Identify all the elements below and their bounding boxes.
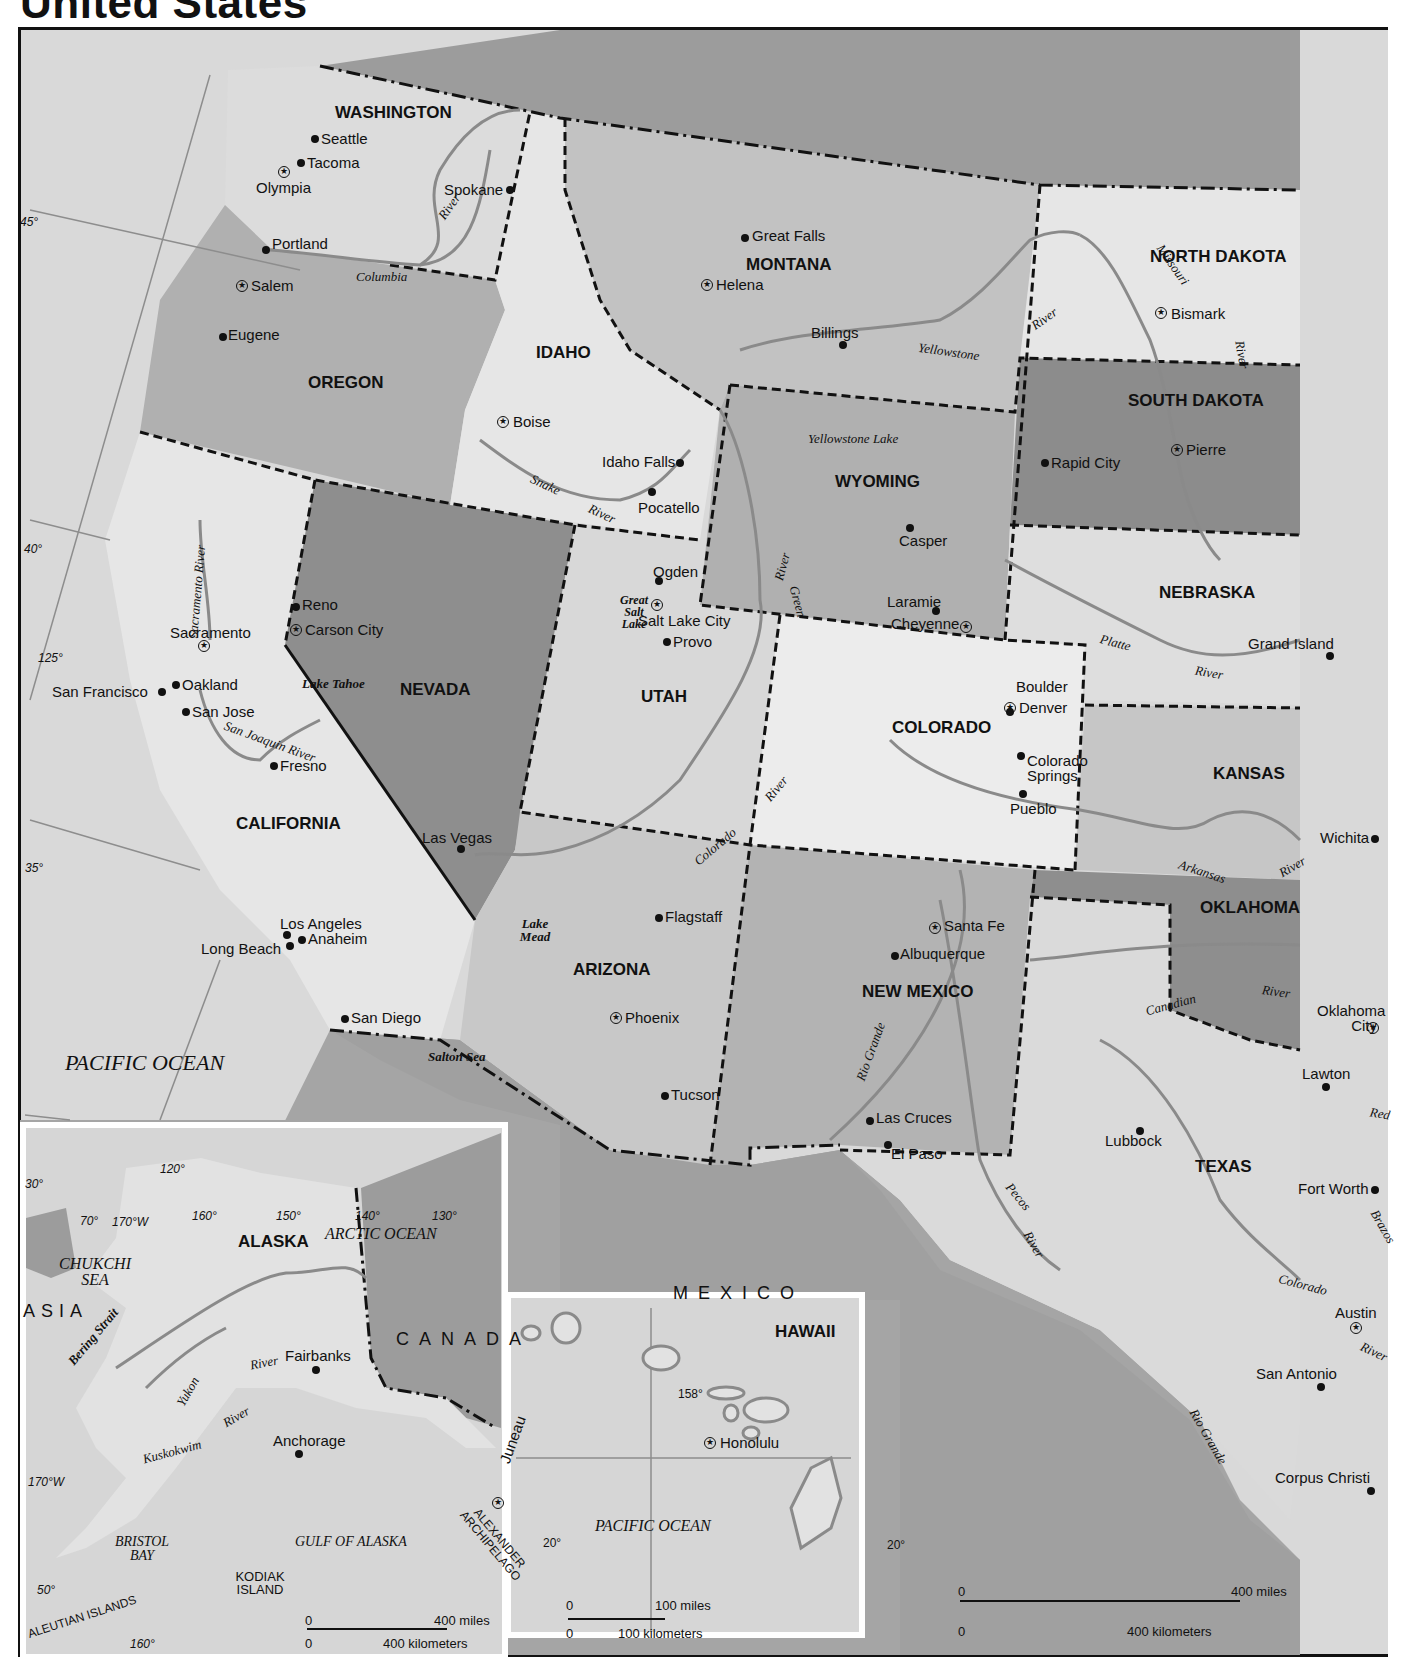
- city-label-grand-island: Grand Island: [1248, 636, 1334, 651]
- city-dot: [219, 333, 227, 341]
- city-label-casper: Casper: [899, 533, 947, 548]
- scale-alaska-zero: 0: [305, 1614, 312, 1627]
- state-label-washington: WASHINGTON: [335, 104, 452, 121]
- lat-label: 40°: [24, 543, 42, 555]
- capital-star-icon: ★: [198, 640, 210, 652]
- river-label-river: River: [1261, 983, 1291, 1000]
- lake-label-yellowstone: Yellowstone Lake: [808, 432, 898, 445]
- lon-label: 125°: [38, 652, 63, 664]
- alaska-lon-label: 170°W: [28, 1476, 64, 1488]
- scale-bar-main: [960, 1600, 1240, 1602]
- state-label-utah: UTAH: [641, 688, 687, 705]
- city-dot: [655, 914, 663, 922]
- state-label-kansas: KANSAS: [1213, 765, 1285, 782]
- state-label-nebraska: NEBRASKA: [1159, 584, 1255, 601]
- alaska-lat-label: 70°: [80, 1215, 98, 1227]
- capital-star-icon: ★: [497, 416, 509, 428]
- state-label-alaska: ALASKA: [238, 1233, 309, 1250]
- alaska-lat-label: 50°: [37, 1584, 55, 1596]
- state-label-wyoming: WYOMING: [835, 473, 920, 490]
- lat-label: 30°: [25, 1178, 43, 1190]
- city-dot: [262, 246, 270, 254]
- city-dot: [891, 952, 899, 960]
- capital-star-icon: ★: [704, 1437, 716, 1449]
- city-label-sacramento: Sacramento: [170, 625, 251, 640]
- capital-star-icon: ★: [1350, 1322, 1362, 1334]
- city-dot: [676, 459, 684, 467]
- city-label-olympia: Olympia: [256, 180, 311, 195]
- city-dot: [1041, 459, 1049, 467]
- city-label-oakland: Oakland: [182, 677, 238, 692]
- capital-star-icon: ★: [236, 280, 248, 292]
- state-label-new-mexico: NEW MEXICO: [862, 983, 973, 1000]
- state-label-texas: TEXAS: [1195, 1158, 1252, 1175]
- city-dot: [297, 159, 305, 167]
- city-label-el-paso: El Paso: [891, 1146, 943, 1161]
- sea-label-chukchi: CHUKCHI SEA: [55, 1256, 135, 1288]
- city-label-corpus-christi: Corpus Christi: [1275, 1470, 1370, 1485]
- river-label-red: Red: [1369, 1105, 1391, 1121]
- city-label-oklahoma-city: Oklahoma City: [1317, 1003, 1377, 1033]
- city-label-las-cruces: Las Cruces: [876, 1110, 952, 1125]
- hawaii-inset: [505, 1292, 865, 1638]
- scale-alaska-zero-km: 0: [305, 1637, 312, 1650]
- city-label-seattle: Seattle: [321, 131, 368, 146]
- state-label-hawaii: HAWAII: [775, 1323, 835, 1340]
- city-dot: [1322, 1083, 1330, 1091]
- state-label-idaho: IDAHO: [536, 344, 591, 361]
- city-dot: [292, 603, 300, 611]
- river-label-columbia: Columbia: [356, 270, 407, 283]
- city-dot: [311, 135, 319, 143]
- city-dot: [270, 762, 278, 770]
- state-label-oklahoma: OKLAHOMA: [1200, 899, 1300, 916]
- city-dot: [661, 1092, 669, 1100]
- city-dot: [1371, 1186, 1379, 1194]
- capital-star-icon: ★: [1155, 307, 1167, 319]
- city-dot: [312, 1366, 320, 1374]
- state-label-california: CALIFORNIA: [236, 815, 341, 832]
- state-label-montana: MONTANA: [746, 256, 832, 273]
- city-label-wichita: Wichita: [1320, 830, 1369, 845]
- city-dot: [341, 1015, 349, 1023]
- scale-bar-hawaii: [568, 1618, 665, 1620]
- city-dot: [1326, 652, 1334, 660]
- lat-label: 35°: [25, 862, 43, 874]
- state-label-arizona: ARIZONA: [573, 961, 650, 978]
- ocean-label-pacific: PACIFIC OCEAN: [65, 1052, 224, 1074]
- scale-main-zero-km: 0: [958, 1625, 965, 1638]
- capital-star-icon: ★: [960, 621, 972, 633]
- alaska-lon-label: 170°W: [112, 1216, 148, 1228]
- city-dot: [906, 524, 914, 532]
- city-label-eugene: Eugene: [228, 327, 280, 342]
- capital-star-icon: ★: [278, 166, 290, 178]
- city-dot: [1017, 752, 1025, 760]
- alaska-lon-label: 130°: [432, 1210, 457, 1222]
- city-label-ogden: Ogden: [653, 564, 698, 579]
- scale-hawaii-km: 100 kilometers: [618, 1627, 703, 1640]
- city-label-colorado-springs: Colorado Springs: [1027, 753, 1097, 783]
- city-dot: [866, 1117, 874, 1125]
- city-dot: [172, 681, 180, 689]
- city-dot: [298, 936, 306, 944]
- alaska-lon-label: 160°: [192, 1210, 217, 1222]
- city-label-rapid-city: Rapid City: [1051, 455, 1120, 470]
- ocean-label-arctic: ARCTIC OCEAN: [325, 1226, 437, 1242]
- city-label-helena: Helena: [716, 277, 764, 292]
- lake-label-great-salt-lake: Great Salt Lake: [614, 594, 654, 630]
- city-dot: [283, 931, 291, 939]
- city-label-pierre: Pierre: [1186, 442, 1226, 457]
- city-dot: [158, 688, 166, 696]
- hawaii-lat-label: 20°: [887, 1539, 905, 1551]
- capital-star-icon: ★: [929, 922, 941, 934]
- city-label-reno: Reno: [302, 597, 338, 612]
- city-label-cheyenne: Cheyenne: [891, 616, 959, 631]
- scale-main-zero: 0: [958, 1585, 965, 1598]
- city-label-tacoma: Tacoma: [307, 155, 360, 170]
- state-label-colorado: COLORADO: [892, 719, 991, 736]
- city-label-pueblo: Pueblo: [1010, 801, 1057, 816]
- city-label-phoenix: Phoenix: [625, 1010, 679, 1025]
- lat-label: 45°: [20, 216, 38, 228]
- city-label-lubbock: Lubbock: [1105, 1133, 1162, 1148]
- city-label-los-angeles: Los Angeles: [280, 916, 362, 931]
- city-dot: [663, 638, 671, 646]
